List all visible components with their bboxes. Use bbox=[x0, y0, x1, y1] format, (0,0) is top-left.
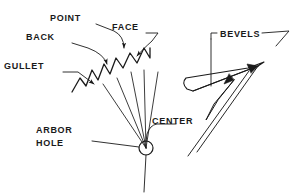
label-bevels: BEVELS bbox=[220, 29, 260, 39]
bevel-long-edge bbox=[188, 71, 249, 156]
label-gullet: GULLET bbox=[4, 61, 44, 71]
radiating-line bbox=[146, 72, 158, 148]
center-leader bbox=[146, 124, 176, 142]
label-face: FACE bbox=[112, 22, 139, 32]
bevels-bracket bbox=[211, 33, 217, 39]
back-leader bbox=[72, 43, 107, 64]
face-leader bbox=[137, 33, 158, 56]
radiating-lines bbox=[103, 70, 158, 148]
label-center: CENTER bbox=[152, 116, 193, 126]
bevel-facet-edge bbox=[193, 66, 258, 91]
label-arbor-hole-line1: ARBOR bbox=[36, 125, 73, 135]
radiating-line bbox=[144, 70, 146, 148]
radiating-line bbox=[117, 78, 146, 148]
label-point: POINT bbox=[50, 13, 81, 23]
bevel-second-facet bbox=[206, 80, 234, 120]
label-back: BACK bbox=[26, 32, 55, 42]
bevels-right-leader bbox=[262, 31, 289, 46]
saw-tooth-diagram: POINT BACK FACE GULLET CENTER ARBOR HOLE… bbox=[0, 0, 307, 194]
arbor-spindle-line bbox=[144, 155, 146, 192]
arbor-hole-leader bbox=[92, 141, 139, 147]
label-arbor-hole-line2: HOLE bbox=[36, 138, 64, 148]
diagram-canvas: POINT BACK FACE GULLET CENTER ARBOR HOLE… bbox=[0, 0, 307, 194]
